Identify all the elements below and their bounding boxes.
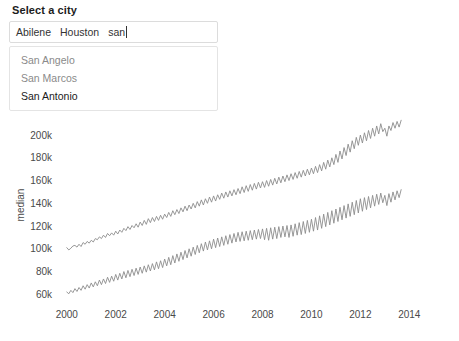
suggestion-item-2[interactable]: San Antonio [10, 87, 217, 105]
text-caret [126, 26, 127, 38]
city-suggestion-list[interactable]: San AngeloSan MarcosSan Antonio [9, 46, 218, 111]
y-tick-label: 160k [30, 175, 53, 186]
x-tick-label: 2010 [300, 309, 323, 320]
suggestion-item-0[interactable]: San Angelo [10, 51, 217, 69]
x-tick-label: 2002 [105, 309, 128, 320]
selected-token-0[interactable]: Abilene [16, 26, 51, 38]
widget-label: Select a city [12, 4, 218, 16]
series-line-houston [67, 120, 401, 250]
x-tick-label: 2000 [56, 309, 79, 320]
x-tick-label: 2008 [251, 309, 274, 320]
y-tick-label: 60k [36, 289, 53, 300]
y-axis-title: median [15, 189, 26, 222]
y-tick-label: 100k [30, 243, 53, 254]
y-tick-label: 120k [30, 221, 53, 232]
y-tick-label: 180k [30, 152, 53, 163]
query-wrap: san [108, 26, 127, 38]
y-tick-label: 140k [30, 198, 53, 209]
x-tick-label: 2004 [154, 309, 177, 320]
series-line-abilene [67, 190, 401, 294]
city-token-input[interactable]: AbileneHouston san [9, 21, 218, 43]
x-tick-label: 2006 [202, 309, 225, 320]
suggestion-item-1[interactable]: San Marcos [10, 69, 217, 87]
y-axis-ticks: 60k80k100k120k140k160k180k200k [30, 130, 53, 300]
selected-token-1[interactable]: Houston [60, 26, 99, 38]
y-tick-label: 80k [36, 266, 53, 277]
x-axis-ticks: 20002002200420062008201020122014 [56, 309, 421, 320]
y-tick-label: 200k [30, 130, 53, 141]
city-select-widget: Select a city AbileneHouston san San Ang… [9, 4, 218, 111]
search-query-text: san [108, 26, 125, 38]
x-tick-label: 2012 [349, 309, 372, 320]
app-root: 60k80k100k120k140k160k180k200k 200020022… [0, 0, 459, 341]
x-tick-label: 2014 [398, 309, 421, 320]
series-group [67, 120, 401, 293]
